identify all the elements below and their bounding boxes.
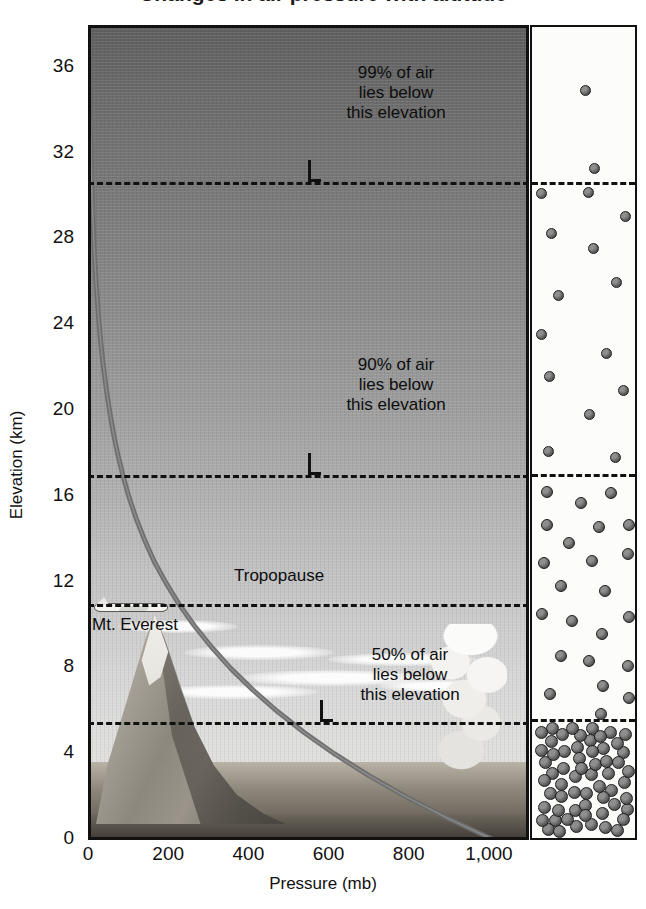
figure-title-text: Changes in air pressure with altitude bbox=[0, 0, 646, 6]
air-molecule-dot bbox=[538, 774, 551, 787]
air-molecule-dot bbox=[620, 792, 633, 805]
annotation-mt-everest: Mt. Everest bbox=[92, 615, 178, 635]
panel-divider-1 bbox=[532, 474, 635, 477]
air-molecule-dot bbox=[544, 371, 555, 382]
x-tick-label: 0 bbox=[83, 843, 94, 865]
air-molecule-dot bbox=[602, 767, 615, 780]
figure-title-cropped: Changes in air pressure with altitude bbox=[0, 0, 646, 14]
air-molecule-dot bbox=[553, 825, 566, 838]
air-molecule-dot bbox=[586, 745, 599, 758]
air-molecule-dot bbox=[618, 385, 629, 396]
air-molecule-dot bbox=[620, 211, 631, 222]
x-tick-label: 800 bbox=[393, 843, 425, 865]
air-molecule-dot bbox=[611, 277, 622, 288]
y-tick-label: 8 bbox=[28, 655, 74, 677]
pointer-foot-90 bbox=[308, 472, 321, 475]
annotation-50-line1: 50% of air bbox=[320, 645, 500, 665]
air-molecule-dot bbox=[546, 228, 557, 239]
panel-divider-0 bbox=[532, 182, 635, 185]
air-molecule-dot bbox=[612, 756, 625, 769]
air-molecule-dot bbox=[622, 765, 635, 778]
air-molecule-dot bbox=[622, 660, 634, 672]
y-tick-label: 4 bbox=[28, 741, 74, 763]
y-tick-label: 0 bbox=[28, 827, 74, 849]
air-molecule-dot bbox=[623, 519, 635, 531]
pointer-foot-99 bbox=[308, 179, 321, 182]
annotation-tropopause: Tropopause bbox=[234, 566, 324, 586]
annotation-99-line1: 99% of air bbox=[306, 63, 486, 83]
annotation-90: 90% of air lies below this elevation bbox=[306, 355, 486, 415]
x-tick-label: 1,000 bbox=[465, 843, 513, 865]
air-molecule-dot bbox=[599, 821, 612, 834]
reference-line-90 bbox=[88, 475, 529, 478]
pressure-curve bbox=[88, 25, 529, 840]
air-molecule-dot bbox=[610, 452, 621, 463]
air-molecule-dot bbox=[593, 780, 606, 793]
annotation-50-line3: this elevation bbox=[320, 685, 500, 705]
air-molecule-dot bbox=[593, 521, 605, 533]
air-molecule-dot bbox=[566, 722, 579, 735]
air-molecule-dot bbox=[608, 798, 621, 811]
x-tick-label: 400 bbox=[233, 843, 265, 865]
air-molecule-dot bbox=[586, 555, 598, 567]
air-molecule-dot bbox=[611, 737, 624, 750]
air-molecule-dot bbox=[536, 188, 547, 199]
air-molecule-dot bbox=[555, 790, 568, 803]
air-molecule-dot bbox=[538, 557, 550, 569]
air-molecule-dot bbox=[623, 611, 635, 623]
annotation-90-line2: lies below bbox=[306, 375, 486, 395]
reference-line-99 bbox=[88, 182, 529, 185]
reference-line-50 bbox=[88, 722, 529, 725]
x-tick-label: 600 bbox=[313, 843, 345, 865]
air-molecule-dot bbox=[543, 446, 554, 457]
y-tick-label: 12 bbox=[28, 570, 74, 592]
plot-area: 99% of air lies below this elevation 90%… bbox=[88, 25, 529, 840]
y-tick-label: 36 bbox=[28, 55, 74, 77]
pointer-foot-50 bbox=[320, 719, 333, 722]
air-molecule-dot bbox=[553, 290, 564, 301]
air-molecule-dot bbox=[568, 786, 581, 799]
air-molecule-dot bbox=[547, 748, 560, 761]
x-axis-title: Pressure (mb) bbox=[0, 874, 646, 894]
air-molecule-dot bbox=[605, 487, 617, 499]
air-molecule-dot bbox=[544, 688, 556, 700]
y-tick-label: 16 bbox=[28, 484, 74, 506]
air-molecule-dot bbox=[536, 608, 548, 620]
air-molecule-dot bbox=[541, 519, 553, 531]
air-molecule-dot bbox=[588, 243, 599, 254]
air-molecule-dot bbox=[596, 807, 609, 820]
annotation-90-line3: this elevation bbox=[306, 395, 486, 415]
air-molecule-dot bbox=[584, 409, 595, 420]
air-molecule-dot bbox=[563, 537, 575, 549]
air-molecule-dot bbox=[622, 548, 634, 560]
air-molecule-dot bbox=[617, 813, 630, 826]
annotation-50-line2: lies below bbox=[320, 665, 500, 685]
air-molecule-dot bbox=[583, 655, 595, 667]
annotation-99-line3: this elevation bbox=[306, 103, 486, 123]
air-molecule-dot bbox=[580, 787, 593, 800]
air-molecule-dot bbox=[541, 486, 553, 498]
air-molecule-dot bbox=[538, 801, 551, 814]
annotation-99: 99% of air lies below this elevation bbox=[306, 63, 486, 123]
air-molecule-dot bbox=[536, 329, 547, 340]
air-molecule-dot bbox=[601, 348, 612, 359]
air-molecule-dot bbox=[618, 776, 631, 789]
y-tick-label: 24 bbox=[28, 312, 74, 334]
y-tick-label: 20 bbox=[28, 398, 74, 420]
air-molecule-dot bbox=[597, 742, 610, 755]
air-molecule-dot bbox=[555, 650, 567, 662]
air-molecule-dot bbox=[599, 585, 611, 597]
air-molecule-dot bbox=[623, 692, 635, 704]
annotation-50: 50% of air lies below this elevation bbox=[320, 645, 500, 705]
air-molecule-dot bbox=[596, 628, 608, 640]
air-molecule-dot bbox=[580, 85, 591, 96]
reference-line-tropopause bbox=[88, 604, 529, 607]
molecule-density-panel bbox=[530, 25, 637, 840]
air-molecule-dot bbox=[594, 730, 607, 743]
air-molecule-dot bbox=[597, 680, 609, 692]
air-molecule-dot bbox=[566, 615, 578, 627]
air-molecule-dot bbox=[555, 580, 567, 592]
air-molecule-dot bbox=[575, 497, 587, 509]
annotation-90-line1: 90% of air bbox=[306, 355, 486, 375]
y-tick-label: 28 bbox=[28, 226, 74, 248]
